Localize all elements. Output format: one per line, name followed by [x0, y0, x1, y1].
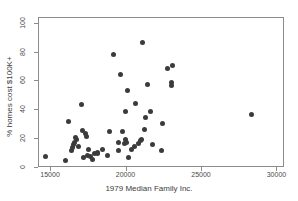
data-point — [120, 129, 125, 134]
data-point — [118, 72, 123, 77]
data-point — [74, 137, 79, 142]
data-point — [43, 154, 48, 159]
data-point — [124, 140, 129, 145]
y-tick-label: 60 — [19, 77, 26, 85]
data-points-layer — [39, 18, 283, 166]
y-tick-label: 80 — [19, 48, 26, 56]
data-point — [126, 155, 131, 160]
data-point — [107, 129, 112, 134]
data-point — [76, 144, 81, 149]
data-point — [86, 147, 91, 152]
data-point — [165, 66, 170, 71]
data-point — [159, 148, 164, 153]
data-point — [100, 147, 105, 152]
y-tick-label: 40 — [19, 105, 26, 113]
x-tick-label: 25000 — [191, 171, 210, 178]
data-point — [249, 112, 254, 117]
data-point — [111, 52, 116, 57]
y-tick-mark — [34, 138, 38, 139]
x-axis-label: 1979 Median Family Inc. — [0, 184, 298, 193]
data-point — [116, 148, 121, 153]
x-tick-label: 20000 — [116, 171, 135, 178]
scatter-plot-figure: 1979 Median Family Inc. % homes cost $10… — [0, 0, 298, 201]
y-tick-label: 100 — [19, 17, 26, 29]
data-point — [145, 82, 150, 87]
y-tick-label: 0 — [19, 165, 26, 169]
data-point — [139, 137, 144, 142]
y-tick-mark — [34, 167, 38, 168]
data-point — [143, 115, 148, 120]
data-point — [123, 109, 128, 114]
y-tick-label: 20 — [19, 134, 26, 142]
data-point — [84, 134, 89, 139]
y-tick-mark — [34, 80, 38, 81]
data-point — [150, 142, 155, 147]
plot-frame — [38, 17, 284, 167]
data-point — [142, 127, 147, 132]
data-point — [105, 153, 110, 158]
data-point — [66, 119, 71, 124]
data-point — [148, 109, 153, 114]
x-tick-label: 30000 — [267, 171, 286, 178]
data-point — [140, 40, 145, 45]
data-point — [63, 158, 68, 163]
data-point — [79, 102, 84, 107]
data-point — [160, 121, 165, 126]
y-axis-label: % homes cost $100K+ — [5, 56, 14, 136]
y-tick-mark — [34, 23, 38, 24]
data-point — [133, 101, 138, 106]
data-point — [169, 83, 174, 88]
data-point — [90, 157, 95, 162]
data-point — [125, 88, 130, 93]
y-tick-mark — [34, 109, 38, 110]
data-point — [95, 151, 100, 156]
data-point — [116, 140, 121, 145]
data-point — [170, 63, 175, 68]
x-tick-label: 15000 — [40, 171, 59, 178]
y-tick-mark — [34, 52, 38, 53]
